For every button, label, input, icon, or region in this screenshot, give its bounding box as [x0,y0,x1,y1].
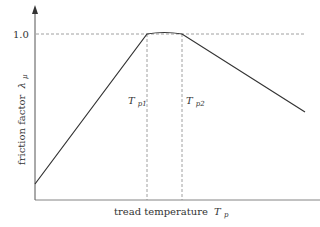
x-axis-label: tread temperature T p [114,206,229,219]
y-axis-label-symbol: λ [16,82,27,89]
y-axis-label: friction factor λ μ [16,74,29,165]
friction-temperature-diagram: 1.0 friction factor λ μ T p1 T p2 tread … [0,0,320,227]
y-tick-label: 1.0 [13,29,29,40]
x-axis-label-sub: p [224,211,229,219]
tp2-sub: p2 [196,100,205,108]
tp1-label: T p1 [128,95,147,108]
tp2-label: T p2 [186,95,205,108]
tp2-symbol: T [186,95,194,106]
x-axis-label-symbol: T [214,206,222,217]
y-axis-label-text: friction factor [16,95,27,165]
y-axis-arrow-icon [32,5,38,14]
y-axis-label-sub: μ [21,74,29,79]
tp1-symbol: T [128,95,136,106]
friction-curve [35,33,305,185]
x-axis-label-text: tread temperature [114,206,208,217]
tp1-sub: p1 [138,100,147,108]
